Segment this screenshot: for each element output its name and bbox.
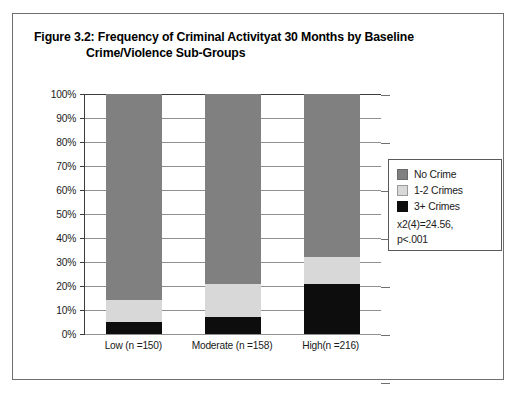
legend-statistic-p-value: p<.001 [397,232,501,247]
y-axis-tick-label: 70% [56,161,76,172]
y-axis-tick-mark [381,95,390,96]
y-axis-tick-label: 90% [56,113,76,124]
gridline [85,334,381,335]
figure-frame: Figure 3.2: Frequency of Criminal Activi… [12,13,504,380]
figure-title: Figure 3.2: Frequency of Criminal Activi… [34,30,454,61]
y-axis-tick-mark [381,383,390,384]
y-axis-tick-label: 30% [56,257,76,268]
bar-segment[interactable] [304,257,360,283]
x-axis: Low (n =150)Moderate (n =158)High(n =216… [84,340,380,360]
y-axis-tick-label: 60% [56,185,76,196]
y-axis-tick-mark [381,335,390,336]
y-axis-tick-label: 40% [56,233,76,244]
legend-color-swatch [397,201,408,212]
legend-color-swatch [397,169,408,180]
x-axis-category-label: Moderate (n =158) [192,340,273,351]
bar-column[interactable] [205,94,261,334]
legend-statistic-chi-square: x2(4)=24.56, [397,217,501,232]
x-axis-category-label: Low (n =150) [105,340,162,351]
y-axis-tick-stub [80,262,85,263]
legend-item[interactable]: 1-2 Crimes [397,183,501,198]
y-axis-tick-mark [381,143,390,144]
legend-item-label: No Crime [414,169,456,180]
legend-item[interactable]: 3+ Crimes [397,199,501,214]
bar-segment[interactable] [205,94,261,284]
bar-segment[interactable] [106,322,162,334]
y-axis-tick-stub [80,310,85,311]
chart-legend: No Crime1-2 Crimes3+ Crimes x2(4)=24.56,… [388,159,502,251]
y-axis-tick-stub [80,118,85,119]
y-axis-tick-label: 100% [51,89,76,100]
bar-segment[interactable] [106,94,162,300]
bar-column[interactable] [106,94,162,334]
y-axis-tick-label: 20% [56,281,76,292]
y-axis: 0%10%20%30%40%50%60%70%80%90%100% [38,94,80,334]
bar-column[interactable] [304,94,360,334]
legend-item[interactable]: No Crime [397,167,501,182]
x-axis-category-label: High(n =216) [302,340,359,351]
bar-segment[interactable] [205,317,261,334]
figure-title-line-1: Figure 3.2: Frequency of Criminal Activi… [34,30,414,44]
y-axis-tick-stub [80,142,85,143]
y-axis-tick-label: 10% [56,305,76,316]
y-axis-tick-stub [80,334,85,335]
legend-item-label: 3+ Crimes [414,201,460,212]
y-axis-tick-stub [80,286,85,287]
legend-item-label: 1-2 Crimes [414,185,463,196]
y-axis-tick-label: 0% [62,329,76,340]
bar-segment[interactable] [205,284,261,318]
plot-area [84,94,381,335]
y-axis-tick-stub [80,166,85,167]
y-axis-tick-stub [80,190,85,191]
legend-items: No Crime1-2 Crimes3+ Crimes [397,167,501,214]
y-axis-tick-stub [80,238,85,239]
bar-segment[interactable] [304,94,360,257]
y-axis-tick-label: 80% [56,137,76,148]
legend-color-swatch [397,185,408,196]
y-axis-tick-label: 50% [56,209,76,220]
y-axis-tick-stub [80,94,85,95]
bar-segment[interactable] [304,284,360,334]
bar-segment[interactable] [106,300,162,322]
y-axis-tick-mark [381,287,390,288]
chart-plot-wrapper: 0%10%20%30%40%50%60%70%80%90%100% Low (n… [38,94,388,359]
figure-title-line-2: Crime/Violence Sub-Groups [34,46,454,62]
y-axis-tick-stub [80,214,85,215]
